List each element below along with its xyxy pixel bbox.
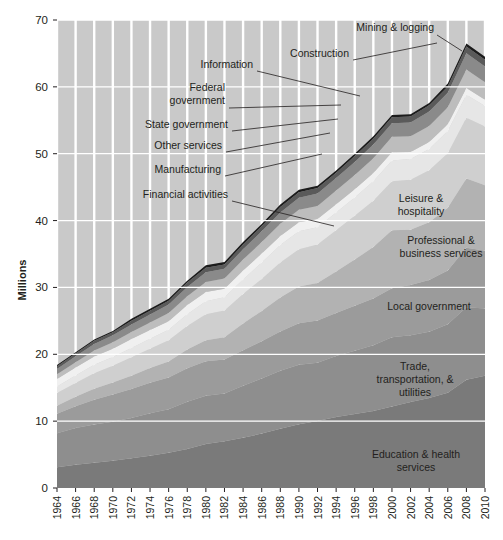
x-axis-tick-label: 1984 xyxy=(237,496,249,520)
y-axis-tick-label: 60 xyxy=(35,81,48,93)
callout-label-information: Information xyxy=(200,58,253,70)
x-axis-tick-label: 1970 xyxy=(107,496,119,520)
x-axis-tick-label: 1992 xyxy=(312,496,324,520)
x-axis-tick-label: 1990 xyxy=(293,496,305,520)
callout-label-other-services: Other services xyxy=(154,139,222,151)
x-axis-tick-label: 1982 xyxy=(218,496,230,520)
y-axis-tick-label: 40 xyxy=(35,215,48,227)
x-axis-tick-label: 1998 xyxy=(367,496,379,520)
x-axis-tick-label: 1988 xyxy=(274,496,286,520)
y-axis-tick-label: 70 xyxy=(35,14,48,26)
callout-label-manufacturing: Manufacturing xyxy=(154,163,221,175)
x-axis: 1964196619681970197219741976197819801982… xyxy=(51,488,491,519)
x-axis-tick-label: 1972 xyxy=(125,496,137,520)
area-label-leisure-hospitality: Leisure &hospitality xyxy=(398,192,445,217)
x-axis-tick-label: 2004 xyxy=(423,496,435,520)
x-axis-tick-label: 1994 xyxy=(330,496,342,520)
x-axis-tick-label: 1996 xyxy=(349,496,361,520)
area-label-local-government: Local government xyxy=(387,300,471,312)
x-axis-tick-label: 1980 xyxy=(200,496,212,520)
x-axis-tick-label: 2006 xyxy=(442,496,454,520)
x-axis-tick-label: 1976 xyxy=(163,496,175,520)
y-axis-tick-label: 0 xyxy=(42,482,48,494)
x-axis-tick-label: 1974 xyxy=(144,496,156,520)
chart-svg: 010203040506070 196419661968197019721974… xyxy=(0,0,503,540)
y-axis-title-text: Millions xyxy=(16,260,28,301)
x-axis-tick-label: 2010 xyxy=(479,496,491,520)
stacked-area-chart: 010203040506070 196419661968197019721974… xyxy=(0,0,503,540)
callout-label-state-government: State government xyxy=(145,118,228,130)
x-axis-tick-label: 1978 xyxy=(181,496,193,520)
callout-label-financial-activities: Financial activities xyxy=(143,188,228,200)
x-axis-tick-label: 2008 xyxy=(460,496,472,520)
y-axis-tick-label: 30 xyxy=(35,281,48,293)
area-label-professional-business-services: Professional &business services xyxy=(400,234,483,259)
y-axis-title: Millions xyxy=(16,260,28,301)
x-axis-tick-label: 1986 xyxy=(256,496,268,520)
y-axis-tick-label: 50 xyxy=(35,148,48,160)
x-axis-tick-label: 1964 xyxy=(51,496,63,520)
x-axis-tick-label: 2000 xyxy=(386,496,398,520)
y-axis-tick-label: 10 xyxy=(35,415,48,427)
y-axis-tick-label: 20 xyxy=(35,348,48,360)
y-axis: 010203040506070 xyxy=(35,14,57,494)
x-axis-tick-label: 2002 xyxy=(405,496,417,520)
callout-label-construction: Construction xyxy=(290,47,349,59)
x-axis-tick-label: 1968 xyxy=(88,496,100,520)
callout-label-mining-logging: Mining & logging xyxy=(356,21,434,33)
x-axis-tick-label: 1966 xyxy=(70,496,82,520)
